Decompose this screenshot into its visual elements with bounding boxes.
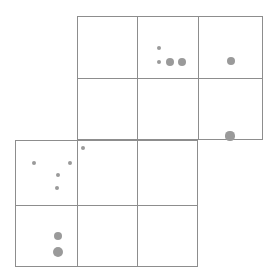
grid-cell-lower-r1c3[interactable]	[137, 140, 198, 205]
scatter-point-p2	[157, 60, 161, 64]
grid-cell-upper-r2c2[interactable]	[137, 78, 198, 140]
scatter-quadrant-canvas	[0, 0, 276, 277]
grid-cell-lower-r1c2[interactable]	[77, 140, 137, 205]
scatter-point-p6	[225, 131, 234, 140]
grid-cell-upper-r2c1[interactable]	[77, 78, 137, 140]
grid-cell-lower-r2c3[interactable]	[137, 205, 198, 267]
scatter-point-p7	[81, 146, 85, 150]
scatter-point-p13	[53, 247, 63, 257]
grid-cell-upper-r1c2[interactable]	[137, 16, 198, 78]
grid-cell-upper-r1c1[interactable]	[77, 16, 137, 78]
grid-cell-upper-r1c3[interactable]	[198, 16, 263, 78]
grid-cell-lower-r1c1[interactable]	[15, 140, 77, 205]
scatter-point-p1	[157, 46, 161, 50]
grid-cell-lower-r2c1[interactable]	[15, 205, 77, 267]
grid-cell-lower-r2c2[interactable]	[77, 205, 137, 267]
